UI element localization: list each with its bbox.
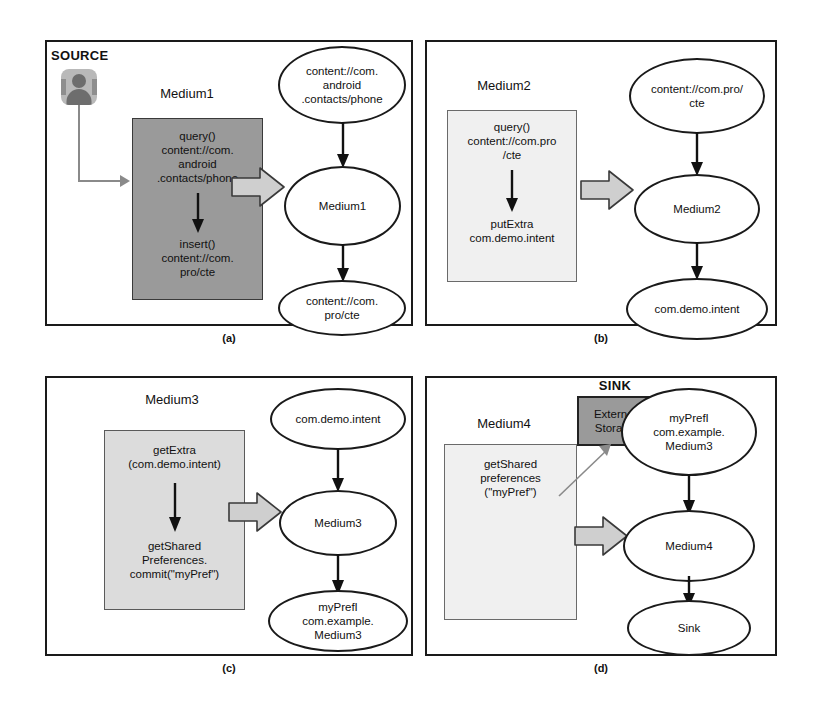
panel-c-code-bottom: getShared Preferences. commit("myPref"): [130, 539, 219, 581]
panel-a-node-3: content://com. pro/cte: [278, 280, 406, 336]
panel-c-node-3-label: myPrefI com.example. Medium3: [302, 600, 374, 642]
panel-c-node-2: Medium3: [279, 490, 397, 556]
panel-c-node-3: myPrefI com.example. Medium3: [268, 590, 408, 652]
panel-c-code-box: getExtra (com.demo.intent) getShared Pre…: [104, 430, 245, 610]
panel-a-code-bottom: insert() content://com. pro/cte: [161, 237, 233, 279]
panel-a-edge-2: [335, 244, 351, 284]
panel-a-block-arrow-icon: [230, 165, 286, 209]
panel-c-code-top: getExtra (com.demo.intent): [128, 443, 221, 471]
panel-b-node-2: Medium2: [634, 174, 760, 244]
panel-d-block-arrow-icon: [573, 514, 629, 558]
panel-a-component-label: Medium1: [137, 86, 237, 101]
panel-c-caption: (c): [45, 662, 413, 674]
panel-b: Medium2 query() content://com.pro /cte p…: [425, 40, 777, 326]
panel-a-code-top: query() content://com. android .contacts…: [157, 129, 238, 185]
panel-c-inner-arrow-icon: [167, 483, 183, 533]
panel-b-edge-2: [689, 242, 705, 282]
source-to-codebox-connector: [76, 105, 136, 191]
panel-a-caption: (a): [45, 332, 413, 344]
panel-c-edge-1: [330, 448, 346, 494]
panel-c-node-2-label: Medium3: [314, 516, 361, 530]
panel-a-node-1: content://com. android .contacts/phone: [278, 46, 406, 124]
panel-b-component-label: Medium2: [449, 78, 559, 93]
panel-d-component-label: Medium4: [449, 416, 559, 431]
panel-a-code-box: query() content://com. android .contacts…: [132, 118, 263, 300]
panel-a-node-2-label: Medium1: [319, 199, 366, 213]
panel-d-storage-arrow: [555, 444, 619, 500]
panel-d-node-1: myPrefI com.example. Medium3: [621, 388, 757, 476]
panel-a-node-3-label: content://com. pro/cte: [306, 294, 378, 322]
panel-c-node-1: com.demo.intent: [270, 388, 406, 450]
contacts-person-icon: [61, 69, 97, 105]
panel-b-node-1: content://com.pro/ cte: [629, 58, 765, 134]
panel-b-node-2-label: Medium2: [673, 202, 720, 216]
panel-c-block-arrow-icon: [227, 490, 283, 534]
panel-b-node-3: com.demo.intent: [626, 278, 768, 340]
panel-a-node-1-label: content://com. android .contacts/phone: [301, 64, 382, 106]
panel-c: Medium3 getExtra (com.demo.intent) getSh…: [45, 376, 413, 656]
source-label: SOURCE: [51, 48, 131, 63]
panel-d-node-1-label: myPrefI com.example. Medium3: [653, 411, 725, 453]
panel-d: SINK Medium4 External Storage getShared …: [425, 376, 777, 656]
panel-d-caption: (d): [425, 662, 777, 674]
panel-b-inner-arrow-icon: [504, 170, 520, 212]
panel-b-node-1-label: content://com.pro/ cte: [651, 82, 743, 110]
panel-a: SOURCE Medium1 query() content://com. an…: [45, 40, 413, 326]
panel-d-node-2: Medium4: [623, 510, 755, 582]
panel-d-code-top: getShared preferences ("myPref"): [480, 457, 541, 499]
panel-d-node-2-label: Medium4: [665, 539, 712, 553]
panel-a-node-2: Medium1: [284, 166, 401, 246]
panel-b-block-arrow-icon: [579, 168, 635, 212]
sink-label: SINK: [575, 378, 655, 393]
panel-b-code-top: query() content://com.pro /cte: [468, 120, 557, 162]
panel-c-component-label: Medium3: [117, 392, 227, 407]
panel-a-edge-1: [335, 122, 351, 170]
panel-b-caption: (b): [425, 332, 777, 344]
panel-d-node-3: Sink: [627, 600, 751, 656]
panel-b-node-3-label: com.demo.intent: [654, 302, 739, 316]
panel-a-inner-arrow-icon: [190, 193, 206, 233]
panel-c-node-1-label: com.demo.intent: [295, 412, 380, 426]
panel-b-code-bottom: putExtra com.demo.intent: [469, 217, 554, 245]
panel-d-node-3-label: Sink: [678, 621, 700, 635]
panel-b-edge-1: [689, 132, 705, 178]
panel-b-code-box: query() content://com.pro /cte putExtra …: [447, 110, 577, 282]
